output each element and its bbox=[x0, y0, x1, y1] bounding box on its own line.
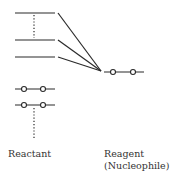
electron-icon bbox=[111, 70, 116, 75]
interaction-line-1 bbox=[58, 13, 101, 71]
reactant-label: Reactant bbox=[8, 148, 51, 159]
electron-icon bbox=[41, 87, 46, 92]
nucleophile-label: (Nucleophile) bbox=[104, 160, 169, 171]
interaction-line-2 bbox=[58, 40, 101, 71]
electron-icon bbox=[22, 103, 27, 108]
electron-icon bbox=[131, 70, 136, 75]
electron-icon bbox=[41, 103, 46, 108]
interaction-line-3 bbox=[58, 57, 101, 71]
electron-icon bbox=[22, 87, 27, 92]
reagent-label: Reagent bbox=[104, 148, 144, 159]
